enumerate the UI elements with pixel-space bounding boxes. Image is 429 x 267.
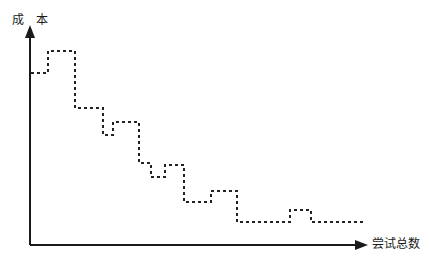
cost-vs-attempts-chart: 成 本 尝试总数: [0, 0, 429, 267]
series-group: [31, 51, 365, 222]
y-axis-label: 成 本: [12, 14, 52, 26]
series-line-0: [31, 51, 365, 222]
plot-area: [0, 0, 429, 267]
x-axis-arrowhead: [355, 240, 368, 250]
axes-group: [25, 25, 368, 250]
x-axis-label: 尝试总数: [372, 238, 420, 250]
